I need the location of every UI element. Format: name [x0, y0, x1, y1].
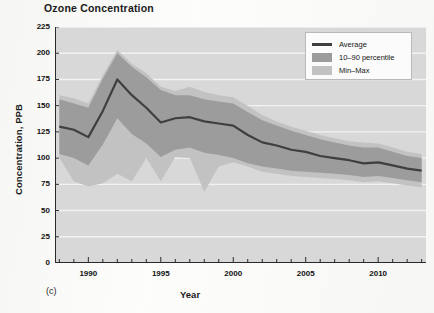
panel-label: (c) — [46, 286, 57, 296]
chart-title: Ozone Concentration — [44, 2, 154, 14]
y-tick-label: 50 — [16, 206, 50, 215]
chart-legend: Average 10–90 percentile Min–Max — [305, 32, 412, 80]
x-axis-label: Year — [180, 289, 200, 300]
y-tick-label: 0 — [16, 258, 50, 267]
y-tick-label: 150 — [16, 101, 50, 110]
y-tick-label: 75 — [16, 179, 50, 188]
legend-label-percentile: 10–90 percentile — [339, 53, 394, 62]
y-tick-label: 175 — [16, 74, 50, 83]
x-tick-label: 1995 — [141, 269, 181, 278]
y-tick-label: 200 — [16, 48, 50, 57]
legend-item-percentile: 10–90 percentile — [312, 51, 405, 64]
chart-page: Ozone Concentration Concentration, PPB Y… — [0, 0, 434, 313]
x-tick-label: 2000 — [213, 269, 253, 278]
x-tick-label: 2010 — [358, 269, 398, 278]
legend-item-average: Average — [312, 38, 405, 51]
y-tick-label: 100 — [16, 153, 50, 162]
y-tick-label: 125 — [16, 127, 50, 136]
legend-swatch-minmax — [312, 66, 332, 75]
legend-line-swatch-average — [312, 43, 332, 46]
y-tick-label: 25 — [16, 232, 50, 241]
legend-item-minmax: Min–Max — [312, 64, 405, 77]
x-tick-label: 1990 — [68, 269, 108, 278]
legend-label-minmax: Min–Max — [339, 66, 369, 75]
y-tick-label: 225 — [16, 22, 50, 31]
legend-swatch-percentile — [312, 53, 332, 62]
legend-label-average: Average — [339, 40, 367, 49]
x-tick-label: 2005 — [286, 269, 326, 278]
